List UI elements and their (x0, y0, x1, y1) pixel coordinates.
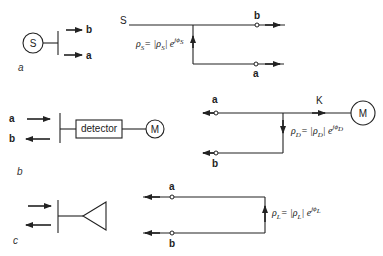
port-label-a: a (212, 94, 218, 105)
port-label-a: a (253, 68, 259, 79)
panel-label-c: c (13, 235, 18, 246)
port-label-b: b (254, 10, 260, 21)
port-label-a: a (9, 113, 15, 124)
panel-b-detector: a b detector M b (9, 113, 164, 177)
panel-label-a: a (18, 62, 24, 73)
reflection-formula-d: ρD= |ρD| ejϕD (290, 123, 343, 139)
reflection-formula-l: ρL= |ρL| ejϕL (271, 205, 321, 221)
port-terminal-icon (170, 231, 174, 235)
port-label-b: b (169, 238, 175, 249)
source-symbol: S (30, 38, 37, 49)
panel-c-network: a b ρL= |ρL| ejϕL (143, 181, 321, 249)
port-label-b: b (212, 158, 218, 169)
meter-symbol: M (359, 108, 367, 119)
panel-c-load: c (13, 200, 106, 246)
port-terminal-icon (214, 111, 218, 115)
panel-label-b: b (17, 166, 23, 177)
port-label-b: b (9, 133, 15, 144)
detector-label: detector (81, 123, 118, 134)
port-label-a: a (86, 50, 92, 61)
panel-a-source: S b a a (18, 24, 92, 73)
port-terminal-icon (214, 151, 218, 155)
port-terminal-icon (170, 195, 174, 199)
port-label-b: b (86, 24, 92, 35)
panel-b-network: a K M b ρD= |ρD| ejϕD (203, 94, 375, 169)
antenna-horn-icon (83, 202, 106, 230)
node-label-s: S (120, 15, 127, 26)
reflection-formula-s: ρS= |ρS| ejϕS (135, 36, 184, 52)
port-terminal-icon (254, 62, 258, 66)
port-terminal-icon (255, 23, 259, 27)
node-label-k: K (316, 95, 323, 106)
panel-a-network: S b a ρS= |ρS| ejϕS (120, 10, 285, 79)
meter-symbol: M (151, 124, 159, 135)
port-label-a: a (169, 181, 175, 192)
reflectometer-diagram: S b a a S b a ρS= |ρS| ejϕS a b detector (0, 0, 383, 256)
